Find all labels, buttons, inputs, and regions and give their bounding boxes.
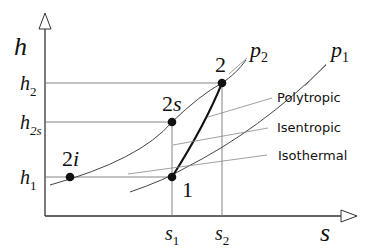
x-axis-label: s — [320, 218, 330, 247]
point-2s — [168, 118, 177, 127]
p2-leader — [229, 58, 247, 74]
isothermal-leader — [128, 155, 267, 174]
p1-label: p1 — [329, 37, 349, 65]
y-axis-arrow-icon — [39, 13, 51, 29]
polytropic-label: Polytropic — [277, 90, 341, 105]
s2-label: s2 — [215, 222, 229, 248]
isobar-p2-curve — [50, 60, 246, 185]
h2s-label: h2s — [20, 111, 42, 138]
point-2i-label: 2i — [62, 146, 79, 171]
isentropic-label: Isentropic — [277, 120, 341, 135]
point-2i — [66, 173, 75, 182]
s1-label: s1 — [165, 222, 179, 248]
point-1-label: 1 — [182, 177, 193, 202]
p1-leader — [305, 64, 326, 86]
point-1 — [168, 173, 177, 182]
axes — [39, 13, 357, 222]
point-2s-label: 2s — [162, 91, 182, 116]
p2-label: p2 — [248, 37, 268, 65]
isentropic-leader — [173, 128, 268, 145]
state-points — [66, 79, 227, 182]
point-2 — [218, 79, 227, 88]
point-2-label: 2 — [215, 52, 226, 77]
h1-label: h1 — [20, 166, 37, 193]
polytropic-leader — [208, 98, 272, 117]
isothermal-label: Isothermal — [278, 148, 347, 163]
y-axis-label: h — [14, 32, 27, 61]
hs-diagram: h s h2 h2s h1 s1 s2 p2 p1 2 2s 2i 1 Poly… — [0, 0, 371, 251]
h2-label: h2 — [20, 72, 37, 99]
x-axis-arrow-icon — [341, 210, 357, 222]
